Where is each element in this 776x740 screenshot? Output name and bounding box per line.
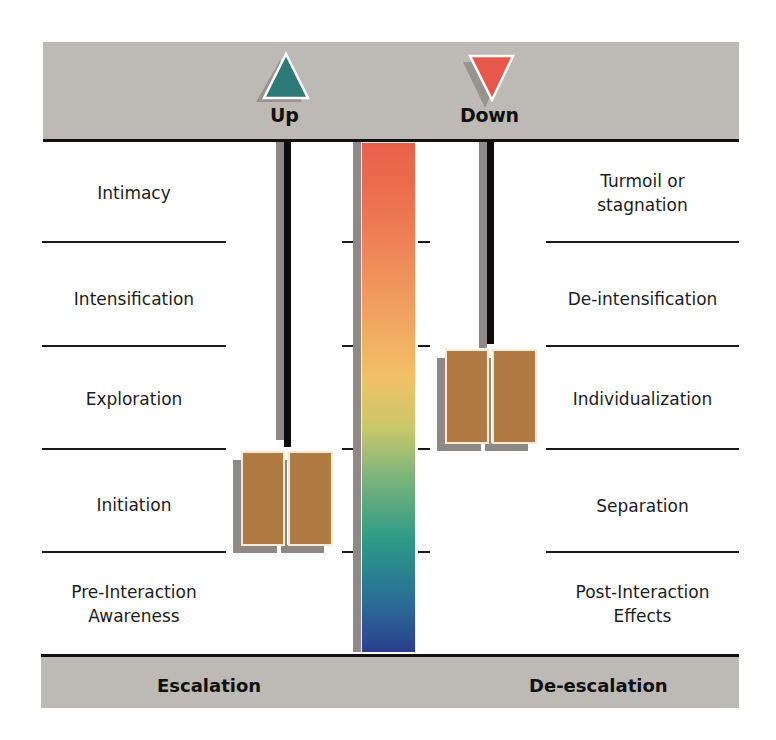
stage-de-intensification: De-intensification: [546, 287, 739, 311]
stage-exploration: Exploration: [42, 387, 226, 411]
escalation-title: Escalation: [157, 675, 261, 696]
tick-mark: [418, 345, 430, 347]
stage-label: Individualization: [546, 387, 739, 411]
stage-intensification: Intensification: [42, 287, 226, 311]
divider-line: [546, 241, 739, 243]
divider-line: [546, 345, 739, 347]
stage-separation: Separation: [546, 494, 739, 518]
stage-label: Separation: [546, 494, 739, 518]
divider-line: [546, 551, 739, 553]
divider-line: [42, 345, 226, 347]
box-shadow: [485, 443, 528, 451]
stage-label: Effects: [546, 604, 739, 628]
rod-shadow: [276, 142, 284, 440]
box-shadow: [233, 545, 277, 553]
stage-label: Intensification: [42, 287, 226, 311]
stage-label: stagnation: [546, 193, 739, 217]
triangle-up-icon: [250, 50, 320, 110]
box-shadow: [233, 460, 241, 553]
stage-pre-interaction-awareness: Pre-Interaction Awareness: [42, 580, 226, 628]
tick-mark: [418, 448, 430, 450]
up-label: Up: [270, 104, 298, 126]
weight-block: [288, 451, 333, 546]
stage-turmoil-stagnation: Turmoil or stagnation: [546, 169, 739, 217]
weight-block: [445, 349, 489, 444]
intensity-gradient-bar: [361, 142, 416, 653]
tick-mark: [418, 241, 430, 243]
tick-mark: [418, 551, 430, 553]
stage-label: Pre-Interaction: [42, 580, 226, 604]
divider-line: [42, 551, 226, 553]
deescalation-title: De-escalation: [529, 675, 668, 696]
stage-label: Post-Interaction: [546, 580, 739, 604]
stage-label: De-intensification: [546, 287, 739, 311]
stage-individualization: Individualization: [546, 387, 739, 411]
stage-label: Awareness: [42, 604, 226, 628]
header-band: [43, 42, 739, 142]
stage-label: Turmoil or: [546, 169, 739, 193]
down-rod: [487, 142, 494, 344]
stage-intimacy: Intimacy: [42, 181, 226, 205]
stage-label: Exploration: [42, 387, 226, 411]
box-shadow: [437, 358, 445, 451]
box-shadow: [281, 545, 324, 553]
stage-label: Intimacy: [42, 181, 226, 205]
divider-line: [42, 448, 226, 450]
weight-block: [241, 451, 285, 546]
down-label: Down: [460, 104, 519, 126]
triangle-down-icon: [455, 50, 525, 110]
divider-line: [546, 448, 739, 450]
rod-shadow: [479, 142, 487, 348]
stage-label: Initiation: [42, 493, 226, 517]
weight-block: [492, 349, 537, 444]
stage-post-interaction-effects: Post-Interaction Effects: [546, 580, 739, 628]
stage-initiation: Initiation: [42, 493, 226, 517]
divider-line: [42, 241, 226, 243]
up-rod: [284, 142, 291, 447]
gradient-shadow: [353, 142, 361, 652]
box-shadow: [437, 443, 481, 451]
